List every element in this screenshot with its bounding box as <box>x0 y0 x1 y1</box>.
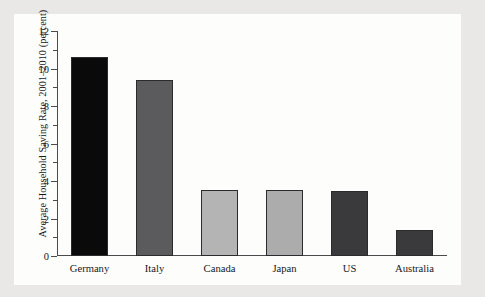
bar-us <box>331 191 368 256</box>
y-tick-label: 10 <box>39 63 50 74</box>
plot-area: 024681012 GermanyItalyCanadaJapanUSAustr… <box>57 31 447 256</box>
figure-page: Average Household Saving Rate, 2001–2010… <box>0 0 485 297</box>
bar-australia <box>396 230 433 256</box>
x-label-italy: Italy <box>145 263 164 274</box>
y-tick-mark <box>51 106 57 107</box>
y-minor-tick-mark <box>53 237 57 238</box>
y-tick-label: 8 <box>44 101 49 112</box>
y-tick-mark <box>51 31 57 32</box>
x-label-japan: Japan <box>272 263 296 274</box>
x-axis-line <box>57 255 447 256</box>
y-tick-mark <box>51 181 57 182</box>
y-tick-mark <box>51 256 57 257</box>
bar-germany <box>71 57 108 256</box>
y-tick-label: 12 <box>39 26 50 37</box>
y-tick-mark <box>51 219 57 220</box>
y-minor-tick-mark <box>53 87 57 88</box>
x-label-australia: Australia <box>395 263 434 274</box>
y-tick-label: 0 <box>44 251 49 262</box>
y-tick-label: 4 <box>44 176 49 187</box>
y-axis-title: Average Household Saving Rate, 2001–2010… <box>37 3 48 245</box>
bar-japan <box>266 190 303 256</box>
y-tick-label: 2 <box>44 213 49 224</box>
y-tick-mark <box>51 144 57 145</box>
y-minor-tick-mark <box>53 50 57 51</box>
y-tick-mark <box>51 69 57 70</box>
y-minor-tick-mark <box>53 125 57 126</box>
x-label-germany: Germany <box>70 263 109 274</box>
y-axis-line <box>57 31 58 256</box>
y-tick-label: 6 <box>44 138 49 149</box>
y-minor-tick-mark <box>53 162 57 163</box>
x-label-canada: Canada <box>204 263 236 274</box>
x-label-us: US <box>343 263 357 274</box>
bar-italy <box>136 80 173 256</box>
chart-panel: Average Household Saving Rate, 2001–2010… <box>14 14 461 285</box>
y-minor-tick-mark <box>53 200 57 201</box>
bar-canada <box>201 190 238 256</box>
